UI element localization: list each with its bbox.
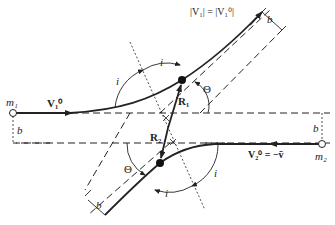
label-b-bottom-left: b [96, 200, 102, 211]
label-v1-magnitude: |V₁| = |V₁⁰| [190, 7, 234, 17]
scattering-diagram: m₁ V₁⁰ |V₁| = |V₁⁰| b b b b R₁ R₂ Θ Θ i … [0, 0, 335, 225]
label-i-bottom-right: i [214, 168, 217, 179]
mass-2-start [319, 141, 326, 148]
label-b-left: b [17, 125, 23, 136]
label-theta-top: Θ [203, 84, 211, 95]
label-v1-initial: V₁⁰ [47, 98, 62, 109]
particle-1 [178, 76, 186, 84]
vertical-dashed [13, 42, 322, 210]
label-i-top: i [160, 57, 163, 68]
asymptote-1 [200, 30, 282, 113]
label-m2: m₂ [315, 151, 327, 162]
label-m1: m₁ [6, 97, 18, 108]
trajectory-2 [105, 144, 319, 215]
b-dimensions [85, 8, 286, 215]
particle-2 [156, 159, 164, 167]
label-v2-initial: V₂⁰ = −v̄ [248, 150, 284, 160]
label-r1: R₁ [178, 96, 189, 107]
label-b-right: b [313, 123, 319, 134]
label-theta-bottom: Θ [124, 164, 132, 175]
label-i-bottom: i [165, 188, 168, 199]
mass-1-start [10, 110, 17, 117]
label-i-top-left: i [116, 76, 119, 87]
label-r2: R₂ [150, 132, 161, 143]
label-b-top-right: b [267, 14, 273, 25]
